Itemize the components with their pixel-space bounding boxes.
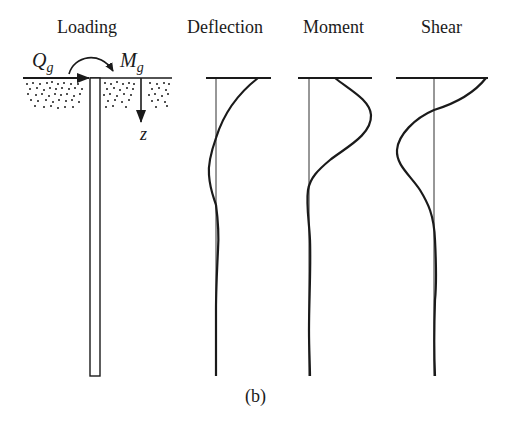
- pile-lateral-loading-diagram: Loading Deflection Moment Shear Qg Mg z …: [0, 0, 505, 421]
- shear-panel: [396, 78, 488, 376]
- deflection-panel: [206, 78, 271, 376]
- moment-curve: [307, 78, 371, 376]
- soil-right-icon: [103, 81, 170, 108]
- diagram-graphics: [0, 0, 505, 421]
- moment-panel: [298, 78, 372, 376]
- shear-curve: [397, 78, 486, 376]
- pile-icon: [90, 78, 100, 376]
- soil-left-icon: [26, 81, 83, 109]
- loading-panel: [23, 58, 172, 376]
- moment-arrow-icon: [69, 58, 113, 74]
